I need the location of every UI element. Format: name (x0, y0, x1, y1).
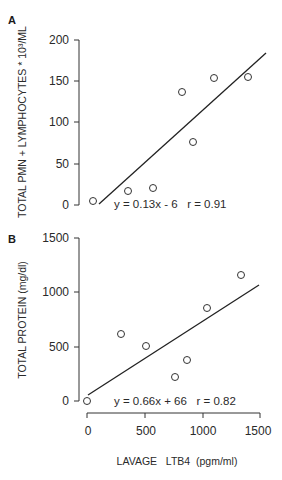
panel-a-letter: A (8, 14, 16, 26)
figure: A TOTAL PMN + LYMPHOCYTES * 10³/ML 0 50 … (0, 0, 282, 480)
data-point (238, 272, 245, 279)
tick-label: 0 (62, 394, 69, 408)
tick-label: 150 (49, 74, 69, 88)
tick-label: 500 (49, 340, 69, 354)
data-point (84, 398, 91, 405)
tick-label: 1000 (190, 424, 217, 438)
data-point (245, 74, 252, 81)
tick-label: 1500 (245, 424, 272, 438)
data-point (211, 75, 218, 82)
data-point (150, 185, 157, 192)
data-point (184, 357, 191, 364)
tick-label: 0 (62, 198, 69, 212)
panel-a-y-axis-title: TOTAL PMN + LYMPHOCYTES * 10³/ML (16, 26, 28, 218)
panel-a: A TOTAL PMN + LYMPHOCYTES * 10³/ML 0 50 … (8, 14, 266, 218)
panel-b-equation: y = 0.66x + 66 r = 0.82 (114, 395, 236, 407)
x-ticks: 0 500 1000 1500 (85, 413, 272, 438)
data-point (172, 374, 179, 381)
data-point (204, 305, 211, 312)
data-point (90, 198, 97, 205)
data-point (190, 139, 197, 146)
tick-label: 0 (85, 424, 92, 438)
panel-a-y-ticks: 0 50 100 150 200 (49, 33, 79, 212)
tick-label: 500 (136, 424, 156, 438)
tick-label: 50 (56, 157, 70, 171)
tick-label: 1000 (42, 285, 69, 299)
data-point (125, 188, 132, 195)
data-point (179, 89, 186, 96)
tick-label: 1500 (42, 231, 69, 245)
data-point (143, 343, 150, 350)
panel-b-y-ticks: 0 500 1000 1500 (42, 231, 79, 408)
panel-b-letter: B (8, 233, 16, 245)
tick-label: 100 (49, 115, 69, 129)
panel-b-points (84, 272, 245, 405)
panel-b-regression-line (88, 285, 259, 395)
tick-label: 200 (49, 33, 69, 47)
panel-a-regression-line (99, 53, 266, 204)
panel-a-equation: y = 0.13x - 6 r = 0.91 (114, 198, 227, 210)
x-axis-title: LAVAGE LTB4 (pgm/ml) (117, 455, 238, 467)
data-point (118, 331, 125, 338)
panel-b: B TOTAL PROTEIN (mg/dl) 0 500 1000 1500 … (8, 231, 272, 467)
panel-b-y-axis-title: TOTAL PROTEIN (mg/dl) (16, 261, 28, 379)
